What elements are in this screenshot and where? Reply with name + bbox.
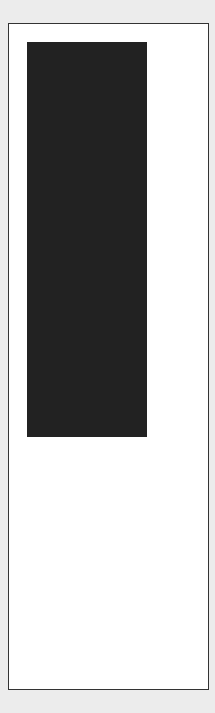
pattern-grid bbox=[27, 42, 147, 437]
chart-panel bbox=[8, 23, 209, 690]
